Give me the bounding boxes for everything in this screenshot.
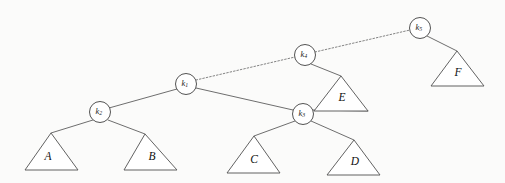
tree-edge-k4-k5: [315, 30, 410, 52]
subtree-label-B: B: [148, 150, 155, 162]
tree-edge-k3-C: [254, 121, 295, 136]
tree-edge-k2-A: [51, 120, 93, 133]
tree-edge-k5-F: [427, 36, 457, 51]
node-layer: k1k2k3k4k5: [90, 18, 431, 125]
subtree-A: A: [25, 133, 78, 170]
node-label-subscript-k2: 2: [99, 111, 102, 117]
subtree-E: E: [314, 76, 368, 111]
tree-edge-k1-k4: [196, 57, 295, 80]
tree-node-k2: k2: [90, 102, 111, 123]
subtree-label-C: C: [250, 153, 258, 165]
node-label-subscript-k1: 1: [185, 83, 188, 89]
tree-edge-k1-k2: [109, 89, 177, 108]
subtree-F: F: [431, 51, 484, 86]
subtree-label-F: F: [453, 66, 462, 78]
tree-node-k3: k3: [293, 104, 314, 125]
node-label-subscript-k3: 3: [301, 113, 305, 119]
tree-edge-k3-D: [311, 121, 354, 140]
tree-diagram-figure: ABCDEF k1k2k3k4k5: [0, 0, 505, 183]
tree-diagram-canvas: ABCDEF k1k2k3k4k5: [0, 0, 505, 183]
node-label-subscript-k4: 4: [304, 54, 307, 60]
edge-layer: [51, 30, 457, 140]
tree-node-k1: k1: [176, 74, 197, 95]
subtree-B: B: [124, 134, 177, 170]
subtree-label-E: E: [337, 91, 345, 103]
subtree-label-A: A: [43, 150, 52, 162]
subtree-label-D: D: [350, 155, 360, 167]
tree-edge-k2-B: [108, 120, 145, 134]
subtree-D: D: [327, 140, 380, 175]
tree-edge-k4-E: [311, 64, 341, 76]
subtree-C: C: [227, 136, 280, 173]
tree-node-k5: k5: [410, 18, 431, 39]
tree-edge-k1-k3: [196, 88, 293, 110]
node-label-subscript-k5: 5: [419, 27, 422, 33]
tree-node-k4: k4: [295, 45, 316, 66]
